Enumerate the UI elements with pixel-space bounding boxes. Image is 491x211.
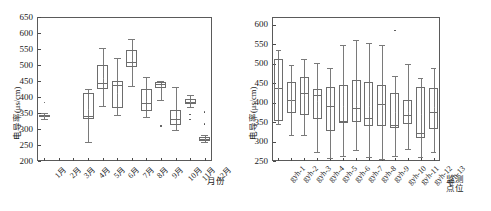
x-tick-mark <box>408 158 409 161</box>
mean-marker <box>421 114 422 115</box>
median-line <box>339 121 348 122</box>
whisker-cap <box>289 135 295 136</box>
x-tick-mark <box>132 158 133 161</box>
whisker-cap <box>128 86 135 87</box>
whisker-cap <box>85 142 92 143</box>
median-line <box>416 133 425 134</box>
y-tick-mark <box>38 81 41 82</box>
mean-marker <box>103 78 104 79</box>
x-tick-mark <box>176 158 177 161</box>
outlier-point <box>189 119 191 121</box>
x-tick-mark <box>278 158 279 161</box>
whisker-cap <box>99 48 106 49</box>
whisker-cap <box>353 150 359 151</box>
whisker-cap <box>114 115 121 116</box>
whisker-cap <box>187 107 194 108</box>
y-tick-mark <box>38 33 41 34</box>
median-line <box>326 106 335 107</box>
mean-marker <box>395 112 396 113</box>
whisker-cap <box>340 156 346 157</box>
median-line <box>126 62 137 63</box>
whisker-cap <box>172 87 179 88</box>
box-rect <box>313 89 322 120</box>
whisker-cap <box>405 149 411 150</box>
x-tick-mark <box>190 158 191 161</box>
whisker-cap <box>379 159 385 160</box>
whisker-cap <box>392 76 398 77</box>
box-rect <box>300 77 309 115</box>
box-rect <box>126 50 137 67</box>
y-tick-label: 450 <box>6 76 33 86</box>
box-rect <box>274 59 283 121</box>
y-tick-label: 300 <box>6 124 33 134</box>
boxplot-panel-months: 电导率(μs/cm) 月份 20025030035040045050055060… <box>0 0 240 211</box>
whisker-cap <box>314 152 320 153</box>
y-tick-label: 300 <box>241 136 268 146</box>
whisker-cap <box>392 156 398 157</box>
box-rect <box>287 82 296 112</box>
x-tick-mark <box>356 158 357 161</box>
median-line <box>83 116 94 117</box>
box-rect <box>429 88 438 129</box>
mean-marker <box>434 107 435 108</box>
whisker-cap <box>314 63 320 64</box>
y-tick-label: 400 <box>6 92 33 102</box>
mean-marker <box>88 109 89 110</box>
x-tick-mark <box>369 158 370 161</box>
x-tick-mark <box>395 158 396 161</box>
y-tick-label: 200 <box>6 156 33 166</box>
x-tick-mark <box>304 158 305 161</box>
box-rect <box>416 87 425 138</box>
whisker-cap <box>172 130 179 131</box>
whisker-cap <box>114 58 121 59</box>
whisker-cap <box>276 124 282 125</box>
x-tick-mark <box>117 158 118 161</box>
y-axis-label-right: 电导率(μs/cm) <box>246 87 258 140</box>
whisker-cap <box>157 100 164 101</box>
figure-root: 电导率(μs/cm) 月份 20025030035040045050055060… <box>0 0 491 211</box>
whisker-cap <box>379 45 385 46</box>
whisker-cap <box>128 39 135 40</box>
whisker-cap <box>353 40 359 41</box>
median-line <box>155 84 166 85</box>
whisker-cap <box>143 77 150 78</box>
mean-marker <box>304 95 305 96</box>
whisker-cap <box>143 117 150 118</box>
mean-marker <box>343 106 344 107</box>
mean-marker <box>146 101 147 102</box>
whisker-cap <box>366 43 372 44</box>
x-tick-mark <box>103 158 104 161</box>
y-tick-mark <box>273 122 276 123</box>
median-line <box>403 115 412 116</box>
mean-marker <box>317 101 318 102</box>
mean-marker <box>44 116 45 117</box>
median-line <box>429 112 438 113</box>
x-tick-mark <box>88 158 89 161</box>
y-tick-label: 550 <box>241 39 268 49</box>
whisker-cap <box>418 157 424 158</box>
y-tick-mark <box>273 44 276 45</box>
y-tick-mark <box>273 161 276 162</box>
y-tick-mark <box>38 129 41 130</box>
y-tick-label: 600 <box>6 28 33 38</box>
mean-marker <box>382 105 383 106</box>
y-tick-label: 650 <box>6 12 33 22</box>
mean-marker <box>205 139 206 140</box>
x-tick-mark <box>434 158 435 161</box>
whisker-cap <box>99 106 106 107</box>
x-tick-mark <box>205 158 206 161</box>
whisker-cap <box>405 64 411 65</box>
mean-marker <box>356 105 357 106</box>
x-tick-mark <box>146 158 147 161</box>
y-tick-mark <box>38 145 41 146</box>
mean-marker <box>369 106 370 107</box>
y-tick-mark <box>273 142 276 143</box>
x-tick-mark <box>59 158 60 161</box>
y-tick-label: 250 <box>6 140 33 150</box>
whisker-cap <box>327 68 333 69</box>
whisker-cap <box>431 68 437 69</box>
mean-marker <box>176 117 177 118</box>
median-line <box>313 95 322 96</box>
mean-marker <box>117 93 118 94</box>
box-rect <box>83 93 94 120</box>
